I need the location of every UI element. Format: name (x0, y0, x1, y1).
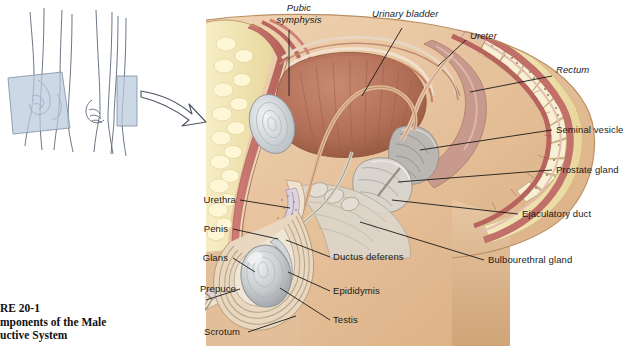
label-testis: Testis (333, 314, 358, 326)
caption-line-1: RE 20-1 (0, 302, 106, 316)
label-glans: Glans (156, 252, 228, 264)
label-scrotum: Scrotum (204, 326, 240, 338)
label-pubic-symphysis: Pubic symphysis (268, 2, 330, 25)
label-prostate-gland: Prostate gland (556, 164, 619, 176)
label-bulbourethral-gland: Bulbourethral gland (488, 254, 572, 266)
caption-line-2: mponents of the Male (0, 316, 106, 330)
section-plane-a (8, 72, 70, 134)
orientation-insets (0, 0, 625, 346)
label-ureter: Ureter (470, 30, 497, 42)
label-seminal-vesicle: Seminal vesicle (556, 124, 624, 136)
section-plane-b (117, 76, 137, 126)
label-ductus-deferens: Ductus deferens (333, 251, 404, 263)
label-prepuce: Prepuce (148, 283, 236, 295)
label-urinary-bladder: Urinary bladder (372, 8, 438, 20)
figure-canvas: Pubic symphysis Urinary bladder Ureter R… (0, 0, 625, 346)
label-epididymis: Epididymis (333, 285, 380, 297)
label-penis: Penis (156, 223, 228, 235)
figure-caption: RE 20-1 mponents of the Male uctive Syst… (0, 302, 106, 343)
transition-arrow (141, 91, 206, 126)
caption-line-3: uctive System (0, 329, 106, 343)
label-rectum: Rectum (556, 64, 589, 76)
label-urethra: Urethra (156, 194, 236, 206)
label-ejaculatory-duct: Ejaculatory duct (522, 208, 591, 220)
